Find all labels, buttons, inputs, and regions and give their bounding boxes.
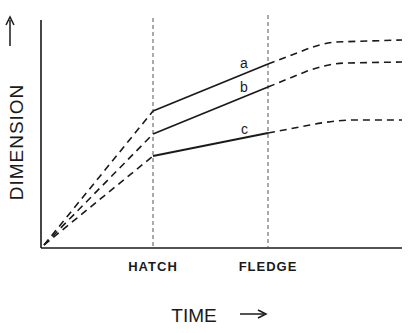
curve-c-label: c [241,121,248,137]
curve-b [44,62,402,245]
y-axis-title: DIMENSION [6,84,27,201]
curve-b-label: b [240,79,248,95]
x-axis-title: TIME [171,305,216,326]
curve-a-label: a [240,55,248,71]
hatch-label: HATCH [128,259,178,274]
x-axis-arrow-icon [240,310,266,318]
curve-c [44,120,402,245]
fledge-label: FLEDGE [239,259,298,274]
y-axis-arrow-icon [6,17,14,46]
growth-diagram: a b c HATCH FLEDGE TIME DIMENSION [0,0,415,333]
